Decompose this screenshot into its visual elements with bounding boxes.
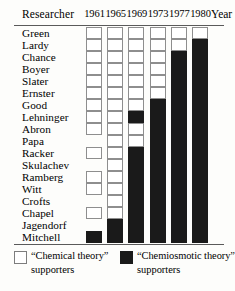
cell: [150, 99, 166, 111]
year-column-1969: [128, 27, 144, 243]
researcher-name: Chance: [22, 51, 84, 63]
cell: [171, 111, 187, 123]
cell: [128, 183, 144, 195]
cell: [150, 219, 166, 231]
cell: [150, 171, 166, 183]
cell: [150, 207, 166, 219]
researcher-name: Green: [22, 27, 84, 39]
cell: [171, 87, 187, 99]
cell: [128, 111, 144, 123]
cell: [171, 159, 187, 171]
year-column-1965: [107, 27, 123, 243]
cell: [128, 171, 144, 183]
cell: [192, 51, 208, 63]
cell: [86, 147, 102, 159]
cell: [107, 99, 123, 111]
header-year-ticks: 196119651969197319771980: [84, 8, 210, 24]
cell: [86, 183, 102, 195]
cell: [128, 159, 144, 171]
researcher-name: Crofts: [22, 195, 84, 207]
cell: [192, 111, 208, 123]
cell: [171, 75, 187, 87]
header-researcher-label: Researcher: [22, 8, 74, 20]
cell: [128, 87, 144, 99]
cell: [107, 135, 123, 147]
cell: [171, 51, 187, 63]
cell: [86, 99, 102, 111]
cell: [192, 219, 208, 231]
cell: [107, 219, 123, 231]
cell: [86, 135, 102, 147]
year-tick-1961: 1961: [84, 8, 105, 19]
year-tick-1980: 1980: [190, 8, 211, 19]
black-square-swatch: [120, 251, 133, 264]
cell: [171, 123, 187, 135]
cell: [150, 63, 166, 75]
cell: [171, 183, 187, 195]
cell: [192, 159, 208, 171]
researcher-name: Abron: [22, 123, 84, 135]
cell: [107, 75, 123, 87]
year-column-1980: [192, 27, 208, 243]
legend: “Chemical theory” supporters “Chemiosmot…: [0, 250, 235, 291]
researcher-name: Good: [22, 99, 84, 111]
cell: [107, 39, 123, 51]
cell: [192, 75, 208, 87]
cell: [150, 111, 166, 123]
cell: [128, 195, 144, 207]
researcher-name: Ernster: [22, 87, 84, 99]
cell: [128, 63, 144, 75]
cell: [107, 171, 123, 183]
researcher-name: Skulachev: [22, 159, 84, 171]
researcher-name: Witt: [22, 183, 84, 195]
cell: [171, 135, 187, 147]
researcher-name: Mitchell: [22, 231, 84, 243]
cell: [107, 111, 123, 123]
cell: [107, 87, 123, 99]
cell: [107, 123, 123, 135]
cell: [171, 27, 187, 39]
researcher-name: Lardy: [22, 39, 84, 51]
cell: [192, 63, 208, 75]
cell: [86, 159, 102, 171]
cell: [150, 195, 166, 207]
year-tick-1969: 1969: [126, 8, 147, 19]
year-tick-1965: 1965: [105, 8, 126, 19]
cell: [128, 207, 144, 219]
cell: [86, 231, 102, 243]
year-column-1977: [171, 27, 187, 243]
year-tick-1977: 1977: [169, 8, 190, 19]
cell: [86, 171, 102, 183]
cell: [107, 207, 123, 219]
cell: [128, 135, 144, 147]
cell: [150, 27, 166, 39]
researcher-name: Papa: [22, 135, 84, 147]
year-column-1973: [150, 27, 166, 243]
cell: [86, 75, 102, 87]
header-rule: [14, 25, 224, 26]
cell: [86, 219, 102, 231]
cell: [192, 135, 208, 147]
table-header: Researcher 196119651969197319771980 Year: [0, 8, 235, 24]
cell: [107, 159, 123, 171]
cell: [171, 99, 187, 111]
cell: [192, 231, 208, 243]
cell: [150, 147, 166, 159]
cell: [86, 27, 102, 39]
cell: [128, 231, 144, 243]
year-tick-1973: 1973: [148, 8, 169, 19]
year-column-1961: [86, 27, 102, 243]
researcher-name: Boyer: [22, 63, 84, 75]
researcher-name: Jagendorf: [22, 219, 84, 231]
researcher-name: Lehninger: [22, 111, 84, 123]
cell: [128, 51, 144, 63]
cell: [150, 135, 166, 147]
researcher-name: Ramberg: [22, 171, 84, 183]
cell: [107, 51, 123, 63]
cell: [150, 51, 166, 63]
cell: [171, 219, 187, 231]
researcher-name: Racker: [22, 147, 84, 159]
cell: [107, 27, 123, 39]
cell: [128, 123, 144, 135]
cell: [192, 123, 208, 135]
